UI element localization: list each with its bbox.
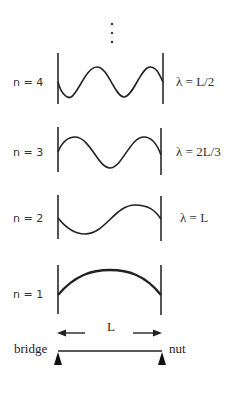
n-label: n = 1 bbox=[13, 288, 43, 301]
wavelength-label: λ = L/2 bbox=[176, 74, 214, 89]
mode-n2: n = 2 λ = L bbox=[13, 195, 208, 241]
nut-support-icon bbox=[158, 352, 166, 365]
right-arrow-icon bbox=[153, 330, 162, 337]
left-arrow-icon bbox=[57, 330, 66, 337]
n-label: n = 2 bbox=[13, 212, 43, 225]
wave-n3 bbox=[58, 137, 161, 168]
wave-n2 bbox=[58, 205, 161, 234]
length-label: L bbox=[107, 319, 115, 334]
wavelength-label: λ = L bbox=[180, 210, 208, 225]
wave-n4 bbox=[58, 67, 163, 97]
mode-n4: n = 4 λ = L/2 bbox=[13, 53, 214, 104]
mode-n3: n = 3 λ = 2L/3 bbox=[13, 127, 221, 175]
nut-label: nut bbox=[169, 341, 186, 356]
wavelength-label: λ = 2L/3 bbox=[176, 144, 221, 159]
n-label: n = 3 bbox=[13, 146, 43, 159]
bridge-label: bridge bbox=[14, 341, 47, 356]
wave-n1 bbox=[58, 270, 161, 295]
mode-n1: n = 1 bbox=[13, 265, 161, 315]
string-base: bridge nut bbox=[14, 341, 186, 365]
length-indicator: L bbox=[57, 319, 162, 337]
n-label: n = 4 bbox=[13, 76, 43, 89]
bridge-support-icon bbox=[54, 352, 62, 365]
harmonics-diagram: n = 4 λ = L/2 n = 3 λ = 2L/3 n = 2 λ = L… bbox=[0, 0, 235, 393]
continuation-dots bbox=[111, 23, 113, 43]
